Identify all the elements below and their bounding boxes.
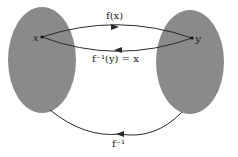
forward-arrow-label: f(x) xyxy=(106,10,123,21)
inverse-map-arrow-label: f⁻¹ xyxy=(112,138,125,149)
point-y xyxy=(190,36,193,39)
point-x xyxy=(40,35,43,38)
codomain-set-ellipse xyxy=(156,10,224,114)
inverse-point-arrow-label: f⁻¹(y) = x xyxy=(92,53,139,64)
inverse-function-diagram: x y f(x) f⁻¹(y) = x f⁻¹ xyxy=(0,0,238,157)
domain-set-ellipse xyxy=(8,7,76,113)
inverse-map-arrow-curve xyxy=(50,110,182,135)
point-y-label: y xyxy=(194,33,201,44)
inverse-map-arrowhead-icon xyxy=(116,131,124,137)
point-x-label: x xyxy=(33,32,39,43)
